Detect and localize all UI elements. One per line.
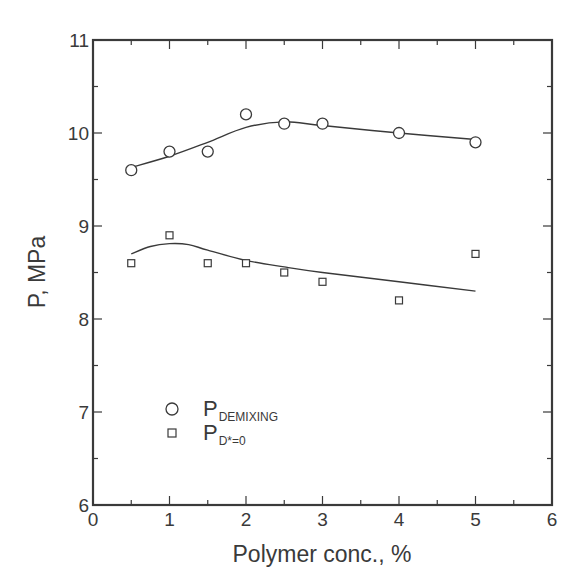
y-tick-label: 10 bbox=[68, 123, 89, 144]
x-tick-label: 2 bbox=[241, 509, 252, 530]
square-marker bbox=[319, 278, 326, 285]
legend-entry: PDEMIXING bbox=[166, 396, 278, 424]
legend-label: PD*=0 bbox=[203, 420, 246, 448]
circle-marker-icon bbox=[166, 403, 178, 415]
legend-entry: PD*=0 bbox=[168, 420, 246, 448]
chart: 012345667891011 Polymer conc., % P, MPa … bbox=[0, 0, 585, 584]
square-marker bbox=[281, 269, 288, 276]
fit-line bbox=[131, 244, 475, 292]
circle-marker bbox=[317, 118, 328, 129]
series-demixing bbox=[126, 109, 481, 176]
y-tick-label: 11 bbox=[69, 30, 89, 51]
y-tick-label: 9 bbox=[78, 216, 89, 237]
circle-marker bbox=[470, 137, 481, 148]
circle-marker bbox=[126, 165, 137, 176]
x-axis-title: Polymer conc., % bbox=[233, 541, 412, 567]
y-axis-title: P, MPa bbox=[24, 236, 50, 309]
circle-marker bbox=[241, 109, 252, 120]
y-tick-label: 8 bbox=[78, 309, 89, 330]
series-layer bbox=[126, 109, 481, 304]
x-tick-label: 1 bbox=[164, 509, 175, 530]
square-marker bbox=[396, 297, 403, 304]
circle-marker bbox=[164, 146, 175, 157]
x-tick-label: 4 bbox=[394, 509, 405, 530]
square-marker bbox=[128, 260, 135, 267]
x-tick-label: 0 bbox=[88, 509, 99, 530]
square-marker bbox=[243, 260, 250, 267]
square-marker bbox=[472, 250, 479, 257]
y-tick-label: 6 bbox=[78, 495, 89, 516]
square-marker-icon bbox=[168, 429, 176, 437]
circle-marker bbox=[279, 118, 290, 129]
tick-labels: 012345667891011 bbox=[68, 30, 557, 530]
y-tick-label: 7 bbox=[78, 402, 89, 423]
fit-line bbox=[131, 122, 475, 168]
square-marker bbox=[204, 260, 211, 267]
circle-marker bbox=[202, 146, 213, 157]
square-marker bbox=[166, 232, 173, 239]
legend: PDEMIXINGPD*=0 bbox=[166, 396, 278, 448]
x-tick-label: 5 bbox=[470, 509, 481, 530]
circle-marker bbox=[394, 128, 405, 139]
series-d-star-zero bbox=[128, 232, 479, 304]
x-tick-label: 3 bbox=[317, 509, 328, 530]
x-tick-label: 6 bbox=[547, 509, 558, 530]
